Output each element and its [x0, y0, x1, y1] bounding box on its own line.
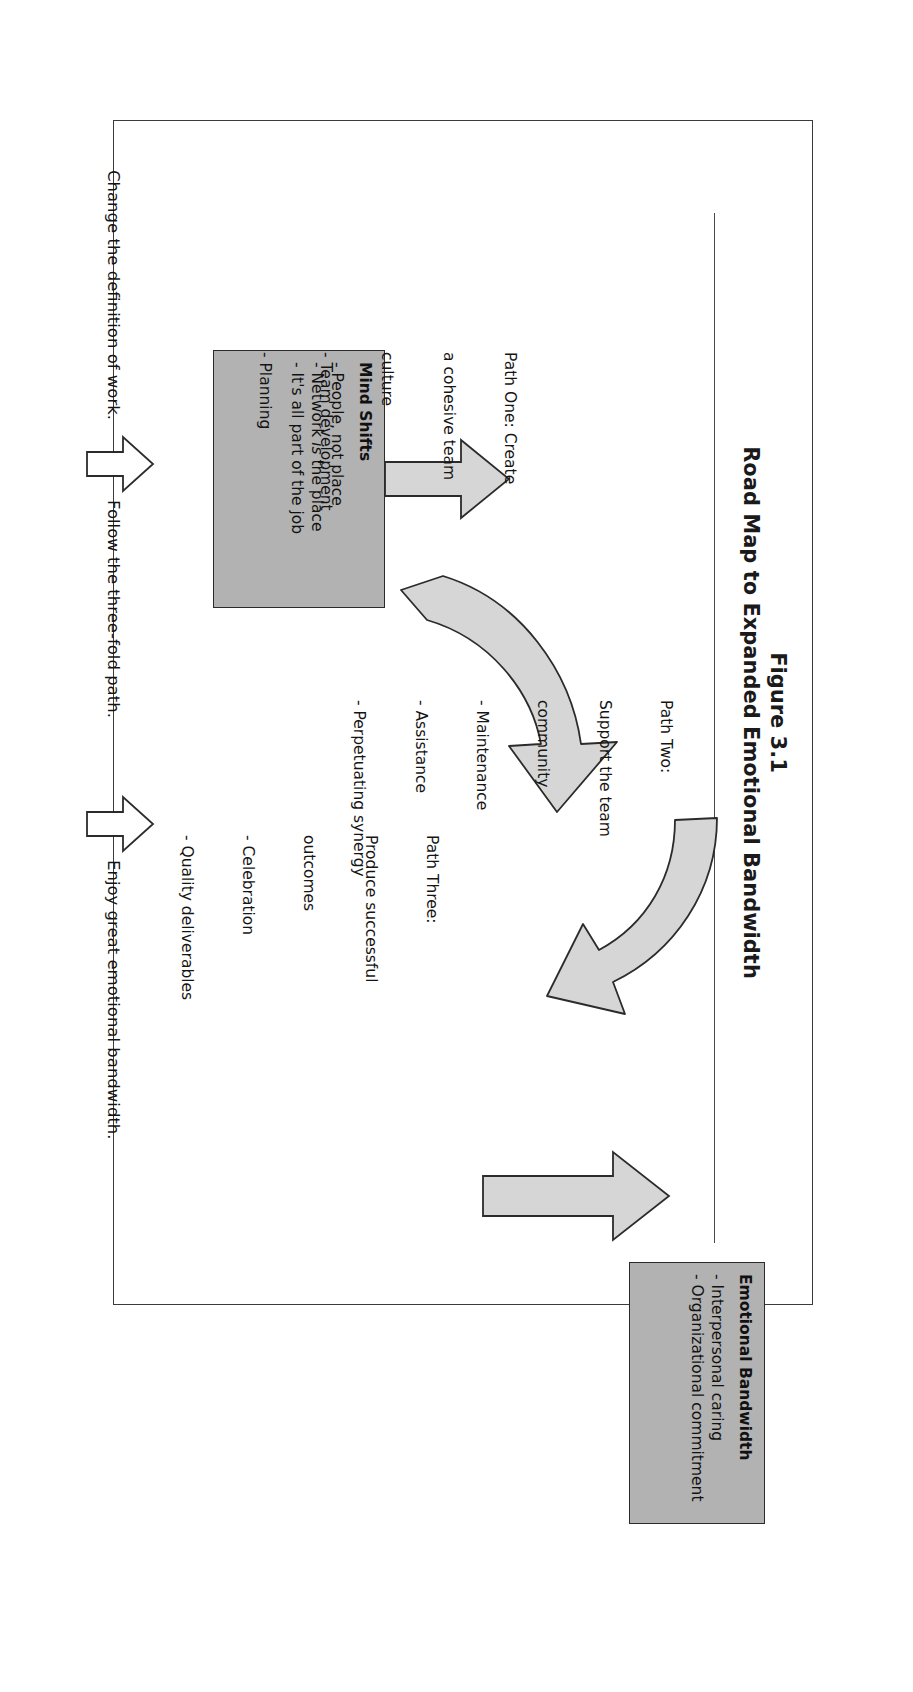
emotional-bandwidth-heading: Emotional Bandwidth — [735, 1274, 755, 1512]
up-arrow-icon — [483, 1152, 669, 1240]
path-three-text: Path Three: Produce successful outcomes … — [135, 835, 483, 1000]
path-one-line-2: a cohesive team — [438, 352, 458, 511]
path-one-bullet-1: - Team development — [316, 352, 336, 511]
path-three-bullet-1: - Celebration — [238, 835, 258, 1000]
path-two-line-1: Path Two: — [656, 700, 676, 877]
path-one-line-1: Path One: Create — [500, 352, 520, 511]
caption-follow-path: Follow the three-fold path. — [104, 500, 123, 718]
path-three-line-1: Path Three: — [422, 835, 442, 1000]
path-three-line-3: outcomes — [299, 835, 319, 1000]
figure-page: Figure 3.1 Road Map to Expanded Emotiona… — [0, 0, 913, 1692]
outline-up-arrow-icon — [87, 437, 153, 491]
emotional-bandwidth-bullet-1: - Interpersonal caring — [707, 1274, 727, 1512]
path-one-text: Path One: Create a cohesive team culture… — [213, 352, 561, 511]
path-three-bullet-2: - Quality deliverables — [176, 835, 196, 1000]
path-one-bullet-2: - Planning — [254, 352, 274, 511]
path-two-line-2: Support the team — [594, 700, 614, 877]
emotional-bandwidth-box: Emotional Bandwidth - Interpersonal cari… — [629, 1262, 765, 1524]
caption-enjoy-bandwidth: Enjoy great emotional bandwidth. — [104, 860, 123, 1140]
path-three-line-2: Produce successful — [360, 835, 380, 1000]
path-one-line-3: culture — [377, 352, 397, 511]
path-two-line-3: community — [533, 700, 553, 877]
caption-change-definition: Change the definition of work. — [104, 170, 123, 420]
emotional-bandwidth-bullet-2: - Organizational commitment — [687, 1274, 707, 1512]
